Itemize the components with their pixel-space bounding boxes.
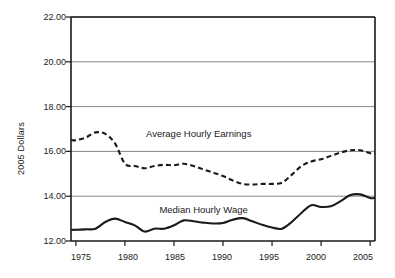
x-axis-tick-label-1980: 1980 xyxy=(108,252,148,262)
gridlines xyxy=(71,17,375,196)
series-annotation-average-hourly-earnings: Average Hourly Earnings xyxy=(146,128,251,139)
x-axis-tick-label-2000: 2000 xyxy=(296,252,336,262)
x-axis-tick-label-2005: 2005 xyxy=(343,252,383,262)
y-axis-tick-label-12: 12.00 xyxy=(30,236,66,246)
x-axis-tick-label-1995: 1995 xyxy=(249,252,289,262)
x-axis-tick-label-1975: 1975 xyxy=(61,252,101,262)
x-axis-tick-label-1985: 1985 xyxy=(155,252,195,262)
x-axis-tick-label-1990: 1990 xyxy=(202,252,242,262)
y-axis-tick-label-22: 22.00 xyxy=(30,12,66,22)
y-axis-tick-label-14: 14.00 xyxy=(30,191,66,201)
chart-figure: 2005 Dollars 22.00 20.00 18.00 16.00 14.… xyxy=(0,0,395,278)
y-axis-tick-label-16: 16.00 xyxy=(30,146,66,156)
y-axis-tick-label-20: 20.00 xyxy=(30,57,66,67)
y-axis-title: 2005 Dollars xyxy=(16,122,26,175)
series-line-average-hourly-earnings xyxy=(71,132,375,184)
series-annotation-median-hourly-wage: Median Hourly Wage xyxy=(159,204,247,215)
data-lines xyxy=(71,132,375,232)
y-axis-tick-label-18: 18.00 xyxy=(30,102,66,112)
